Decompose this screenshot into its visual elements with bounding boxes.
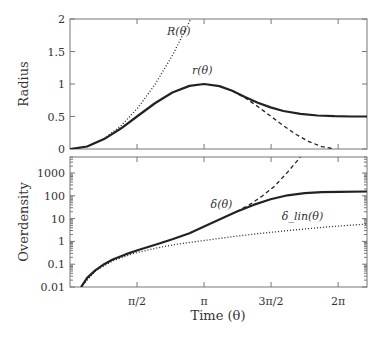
overdensity-panel: 0.010.11101001000π/2π3π/22πδ(θ)δ_lin(θ)	[37, 157, 367, 308]
y-tick-label: 1000	[37, 167, 65, 180]
x-tick-label: 3π/2	[259, 295, 284, 308]
radius-axis-title: Radius	[16, 61, 31, 106]
curve-label: R(θ)	[166, 25, 191, 38]
y-tick-label: 1	[58, 78, 65, 91]
y-tick-label: 0.5	[48, 111, 66, 124]
y-tick-label: 10	[51, 213, 65, 226]
curve-label: r(θ)	[192, 64, 212, 77]
x-tick-label: 2π	[331, 295, 345, 308]
y-tick-label: 1.5	[48, 46, 66, 59]
radius-panel: 00.511.52R(θ)r(θ)	[48, 13, 368, 156]
curve-label: δ(θ)	[211, 198, 233, 211]
y-tick-label: 2	[58, 13, 65, 26]
series-line	[232, 91, 334, 149]
x-tick-label: π/2	[128, 295, 146, 308]
time-axis-title: Time (θ)	[191, 308, 246, 323]
y-tick-label: 0.01	[41, 281, 66, 294]
series-line	[236, 157, 300, 212]
spherical-collapse-chart: 00.511.52R(θ)r(θ) 0.010.11101001000π/2π3…	[0, 0, 382, 341]
y-tick-label: 0.1	[48, 258, 66, 271]
overdensity-axis-title: Overdensity	[16, 182, 31, 262]
curve-label: δ_lin(θ)	[282, 210, 323, 223]
series-line	[70, 19, 191, 149]
plot-frame	[70, 19, 367, 149]
y-tick-label: 100	[44, 190, 65, 203]
x-tick-label: π	[200, 295, 207, 308]
y-tick-label: 1	[58, 235, 65, 248]
series-line	[70, 84, 367, 149]
y-tick-label: 0	[58, 143, 65, 156]
